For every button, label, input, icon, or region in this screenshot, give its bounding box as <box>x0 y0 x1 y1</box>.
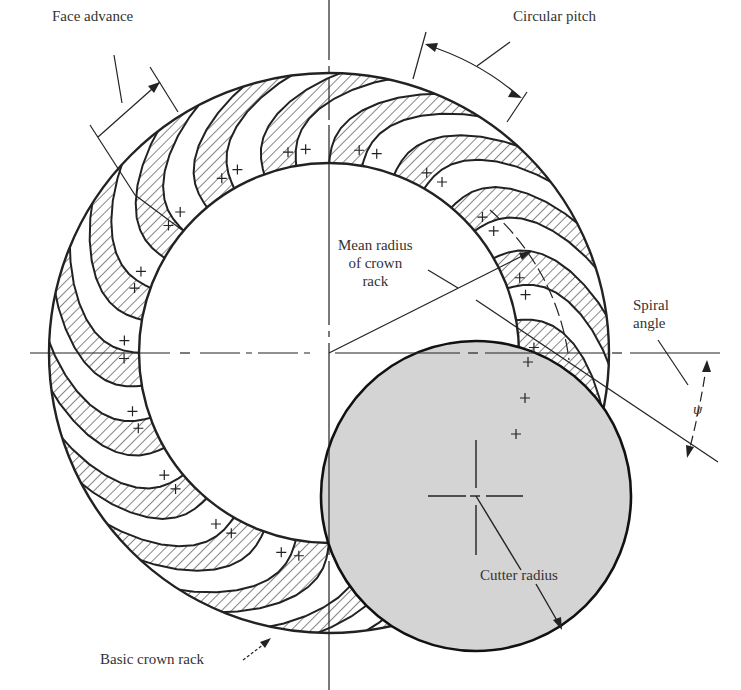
mean-point-cross <box>175 207 185 217</box>
mean-point-cross <box>301 144 311 154</box>
label-mean-radius-3: rack <box>338 272 413 290</box>
mean-point-cross <box>437 177 447 187</box>
circular-pitch-arc <box>427 45 520 97</box>
mean-point-cross <box>372 149 382 159</box>
label-spiral-angle: Spiral angle <box>633 296 669 332</box>
circular-pitch-arrow-left <box>425 43 438 52</box>
label-mean-radius-2: of crown <box>338 254 413 272</box>
mean-radius-pointer <box>428 270 458 288</box>
psi-arrow-top <box>702 360 711 372</box>
label-mean-radius: Mean radius of crown rack <box>338 236 413 290</box>
circular-pitch-pointer <box>477 42 510 66</box>
label-basic-crown-rack: Basic crown rack <box>100 650 204 668</box>
mean-point-cross <box>136 266 146 276</box>
label-spiral-angle-1: Spiral <box>633 296 669 314</box>
label-psi: ψ <box>693 400 702 418</box>
mean-point-cross <box>119 336 129 346</box>
basic-crown-rack-arrow <box>260 638 271 648</box>
circular-pitch-arrow-right <box>508 90 522 98</box>
mean-point-cross <box>127 406 137 416</box>
mean-point-cross <box>276 547 286 557</box>
label-face-advance: Face advance <box>52 7 133 25</box>
mean-point-cross <box>211 519 221 529</box>
label-spiral-angle-2: angle <box>633 314 669 332</box>
psi-arrow-bottom <box>686 445 694 458</box>
label-cutter-radius: Cutter radius <box>480 566 558 584</box>
label-mean-radius-1: Mean radius <box>338 236 413 254</box>
face-advance-pointer <box>114 55 122 103</box>
mean-point-cross <box>489 226 499 236</box>
mean-point-cross <box>521 290 531 300</box>
mean-point-cross <box>159 470 169 480</box>
crown-rack-diagram <box>0 0 741 690</box>
spiral-angle-pointer <box>658 340 688 385</box>
mean-point-cross <box>232 165 242 175</box>
label-circular-pitch: Circular pitch <box>513 7 596 25</box>
circular-pitch-ext-left <box>413 32 426 79</box>
face-advance-dim <box>98 82 160 137</box>
